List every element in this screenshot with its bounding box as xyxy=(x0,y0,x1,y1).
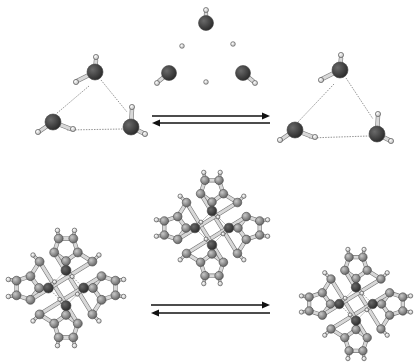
oxygen-atom xyxy=(79,283,89,293)
hydrogen-atom xyxy=(55,228,60,233)
hydrogen-atom xyxy=(312,134,317,139)
carbon-atom xyxy=(196,258,205,267)
carbon-atom xyxy=(35,310,44,319)
oxygen-atom xyxy=(368,299,377,308)
carbon-atom xyxy=(233,198,242,207)
hydrogen-atom xyxy=(375,111,380,116)
carbon-atom xyxy=(219,189,228,198)
hydrogen-atom xyxy=(265,234,269,238)
hydrogen-atom xyxy=(154,234,158,238)
carbon-atom xyxy=(54,234,63,243)
hydrogen-atom xyxy=(202,281,206,285)
hydrogen-bond xyxy=(309,136,369,138)
oxygen-atom xyxy=(335,299,344,308)
hydrogen-atom xyxy=(155,81,160,86)
hydrogen-atom xyxy=(75,292,79,296)
carbon-atom xyxy=(62,257,71,266)
oxygen-atom xyxy=(43,283,53,293)
hydrogen-atom xyxy=(31,319,36,324)
hydrogen-atom xyxy=(52,280,56,284)
carbon-atom xyxy=(255,231,264,240)
carbon-atom xyxy=(69,234,78,243)
carbon-atom xyxy=(12,291,21,300)
carbon-atom xyxy=(54,333,63,342)
hydrogen-atom xyxy=(58,297,62,301)
carbon-atom xyxy=(341,266,349,274)
carbon-atom xyxy=(363,333,371,341)
carbon-atom xyxy=(50,248,59,257)
carbon-atom xyxy=(359,347,367,355)
macrocycle-transition xyxy=(154,170,270,286)
hydrogen-atom xyxy=(97,319,102,324)
hydrogen-atom xyxy=(35,129,40,134)
carbon-atom xyxy=(327,275,335,283)
hydrogen-atom xyxy=(385,271,389,275)
hydrogen-bond xyxy=(101,80,127,112)
hydrogen-atom xyxy=(55,343,60,348)
carbon-atom xyxy=(377,300,385,308)
carbon-atom xyxy=(182,249,191,258)
hydrogen-atom xyxy=(365,308,369,312)
carbon-atom xyxy=(208,250,217,259)
carbon-atom xyxy=(318,311,326,319)
carbon-atom xyxy=(26,295,35,304)
hydrogen-atom xyxy=(72,228,77,233)
carbon-atom xyxy=(35,284,44,293)
hydrogen-atom xyxy=(204,8,209,13)
water-trimer-row-equilibrium-arrow xyxy=(152,113,270,127)
carbon-atom xyxy=(215,176,224,185)
hydrogen-atom xyxy=(216,215,220,219)
oxygen-atom xyxy=(207,206,217,216)
trimer-right xyxy=(277,52,393,143)
hydrogen-atom xyxy=(323,333,327,337)
oxygen-atom xyxy=(236,66,251,81)
hydrogen-atom xyxy=(70,274,74,278)
trimer-transition xyxy=(155,8,258,86)
oxygen-atom xyxy=(45,114,61,130)
carbon-atom xyxy=(219,258,228,267)
oxygen-atom xyxy=(199,16,214,31)
hydrogen-atom xyxy=(385,333,389,337)
hydrogen-atom xyxy=(218,281,222,285)
hydrogen-atom xyxy=(6,294,11,299)
arrow-head-backward-icon xyxy=(151,310,159,317)
carbon-atom xyxy=(345,253,353,261)
arrow-head-forward-icon xyxy=(262,113,270,120)
hydrogen-atom xyxy=(178,258,182,262)
hydrogen-atom xyxy=(97,253,102,258)
hydrogen-atom xyxy=(73,79,78,84)
hydrogen-atom xyxy=(318,77,323,82)
carbon-atom xyxy=(111,276,120,285)
oxygen-atom xyxy=(123,119,139,135)
hydrogen-atom xyxy=(93,54,98,59)
carbon-atom xyxy=(352,274,360,282)
carbon-atom xyxy=(160,217,169,226)
carbon-atom xyxy=(363,266,371,274)
macrocycle-right xyxy=(299,247,413,361)
carbon-atom xyxy=(377,275,385,283)
carbon-atom xyxy=(327,325,335,333)
carbon-atom xyxy=(97,272,106,281)
carbon-atom xyxy=(399,293,407,301)
hydrogen-atom xyxy=(348,313,352,317)
carbon-atom xyxy=(73,248,82,257)
carbon-atom xyxy=(173,212,182,221)
hydrogen-atom xyxy=(343,296,347,300)
oxygen-atom xyxy=(207,240,217,250)
carbon-atom xyxy=(111,291,120,300)
carbon-atom xyxy=(26,272,35,281)
hydrogen-atom xyxy=(221,232,225,236)
carbon-atom xyxy=(385,289,393,297)
carbon-atom xyxy=(305,293,313,301)
oxygen-atom xyxy=(351,316,360,325)
carbon-atom xyxy=(160,231,169,240)
oxygen-atom xyxy=(351,283,360,292)
oxygen-atom xyxy=(287,122,303,138)
oxygen-atom xyxy=(369,126,385,142)
carbon-atom xyxy=(201,176,210,185)
carbon-atom xyxy=(182,198,191,207)
oxygen-atom xyxy=(190,223,200,233)
carbon-atom xyxy=(318,289,326,297)
carbon-atom xyxy=(182,224,191,233)
hydrogen-atom xyxy=(265,218,269,222)
